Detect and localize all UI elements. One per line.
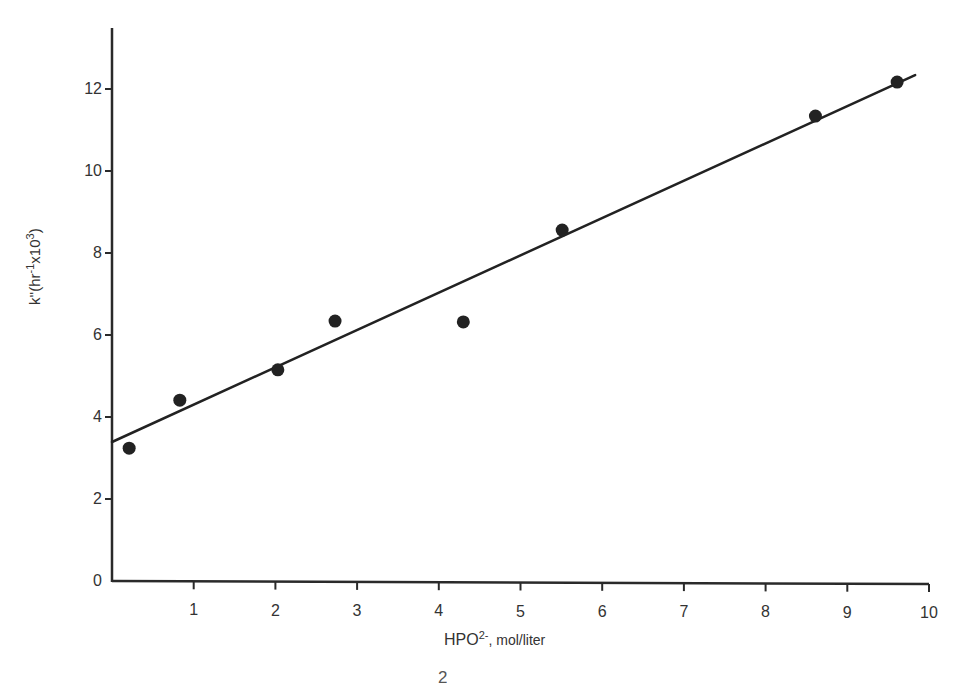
data-point (123, 442, 136, 455)
data-point (271, 363, 284, 376)
x-axis-label-unit: , mol/liter (488, 632, 545, 648)
clipped-caption-glyph: 2 (438, 668, 447, 683)
x-tick-label: 9 (843, 605, 852, 621)
x-axis-label-sup: 2- (479, 629, 489, 641)
x-tick-label: 1 (189, 602, 198, 618)
data-point (457, 315, 470, 328)
data-point (891, 76, 904, 89)
x-tick-label: 7 (679, 604, 688, 620)
x-tick-label: 8 (761, 604, 770, 620)
x-tick-label: 4 (434, 603, 443, 619)
x-tick-label: 6 (598, 604, 607, 620)
y-tick-label: 2 (93, 491, 102, 507)
y-tick-label: 10 (84, 163, 102, 179)
x-axis-label-main: HPO (444, 631, 479, 648)
y-axis-label-mid: x10 (26, 239, 43, 263)
y-tick-label: 6 (93, 327, 102, 343)
y-axis-label: k''(hr-1x103) (26, 228, 43, 305)
y-tick-label: 0 (93, 573, 102, 589)
y-axis-label-sup2: 3 (24, 233, 36, 239)
data-point (173, 394, 186, 407)
y-axis-label-prefix: k''(hr (26, 273, 43, 305)
data-points (123, 76, 904, 455)
x-tick-label: 10 (920, 605, 938, 621)
y-axis-label-suffix: ) (26, 228, 43, 233)
axes (112, 28, 929, 584)
y-tick-label: 4 (93, 409, 102, 425)
y-tick-label: 12 (84, 81, 102, 97)
y-axis-label-sup1: -1 (24, 264, 36, 274)
y-tick-label: 8 (93, 245, 102, 261)
x-tick-label: 3 (353, 603, 362, 619)
data-point (556, 224, 569, 237)
x-tick-label: 2 (271, 603, 280, 619)
x-axis-label: HPO2-, mol/liter (444, 631, 545, 649)
x-tick-label: 5 (516, 604, 525, 620)
chart-plot (0, 0, 967, 683)
fit-line (112, 75, 915, 442)
data-point (329, 315, 342, 328)
data-point (809, 110, 822, 123)
fit-line-segment (112, 75, 915, 442)
